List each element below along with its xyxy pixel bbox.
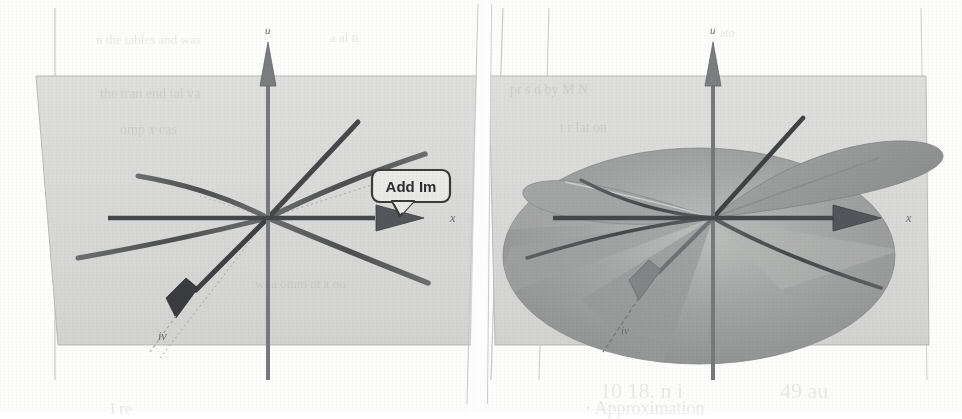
left-panel-canvas: u x iv Add Im (0, 0, 481, 411)
ghost-text-item: t r lat on (560, 120, 607, 136)
ghost-text-item: wi a omm nt a ou (255, 276, 346, 292)
right-panel: u x iv (481, 0, 962, 411)
axis-u-arrowhead (705, 42, 721, 86)
ghost-text-item: n the tables and was (96, 32, 201, 48)
axis-label-iv: iv (621, 324, 629, 336)
ghost-text-item: · Approximation (585, 398, 705, 419)
ghost-text-item: the tran end tal va (100, 86, 200, 102)
ghost-text-item: I re (110, 400, 132, 418)
axis-label-u: u (710, 24, 716, 36)
callout-label: Add Im (386, 178, 437, 195)
axis-u-arrowhead (260, 42, 276, 86)
axis-label-x: x (449, 211, 456, 225)
axis-label-x: x (905, 211, 912, 225)
ghost-text-item: pr s d by M N (510, 82, 588, 98)
ghost-text-item: omp x cas (120, 122, 177, 138)
ghost-text-item: a al ti (330, 30, 359, 46)
left-panel: u x iv Add Im (0, 0, 481, 411)
axis-label-u: u (265, 24, 271, 36)
ghost-text-item: ato (720, 26, 735, 41)
right-panel-canvas: u x iv (481, 0, 962, 411)
ghost-text-item: 49 au (780, 378, 828, 404)
axis-label-iv: iv (158, 329, 167, 343)
